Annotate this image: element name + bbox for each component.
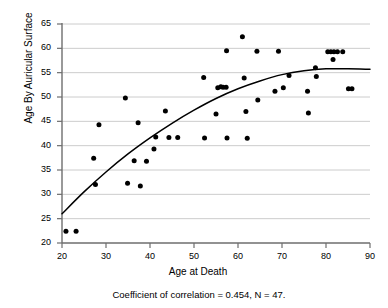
x-tick-label: 40 [138, 252, 162, 261]
data-point [96, 122, 101, 127]
data-point [287, 73, 292, 78]
data-point [123, 95, 128, 100]
data-point [144, 159, 149, 164]
data-point [132, 158, 137, 163]
chart-canvas [0, 0, 388, 308]
data-point [254, 49, 259, 54]
axis-ticks [57, 24, 370, 248]
data-point [91, 156, 96, 161]
y-tick-label: 65 [29, 19, 51, 28]
regression-curve [62, 69, 370, 214]
data-point [74, 229, 79, 234]
data-point [175, 135, 180, 140]
y-tick-label: 20 [29, 238, 51, 247]
gridlines [62, 24, 370, 219]
data-point [335, 49, 340, 54]
data-point [201, 75, 206, 80]
x-tick-label: 50 [182, 252, 206, 261]
y-tick-label: 55 [29, 68, 51, 77]
data-point [255, 97, 260, 102]
data-point [125, 181, 130, 186]
data-point [314, 74, 319, 79]
x-tick-label: 80 [314, 252, 338, 261]
data-point [240, 34, 245, 39]
data-point [136, 120, 141, 125]
scatter-plot-figure: Age By Auricular Surface Age at Death Co… [0, 0, 388, 308]
data-point [166, 135, 171, 140]
data-point [153, 134, 158, 139]
data-point [272, 89, 277, 94]
figure-caption: Coefficient of correlation = 0.454, N = … [44, 289, 354, 301]
x-tick-label: 30 [94, 252, 118, 261]
data-point [243, 109, 248, 114]
data-point [138, 184, 143, 189]
data-point [281, 85, 286, 90]
data-point [245, 136, 250, 141]
x-axis-label: Age at Death [128, 266, 268, 278]
data-point [224, 85, 229, 90]
data-point [305, 89, 310, 94]
data-point [225, 135, 230, 140]
data-point [151, 147, 156, 152]
data-point [276, 49, 281, 54]
axis-lines [62, 23, 370, 243]
y-tick-label: 30 [29, 189, 51, 198]
y-tick-label: 35 [29, 165, 51, 174]
data-point [242, 76, 247, 81]
x-tick-label: 60 [226, 252, 250, 261]
data-point [202, 135, 207, 140]
y-tick-label: 50 [29, 92, 51, 101]
data-point [340, 49, 345, 54]
y-tick-label: 25 [29, 214, 51, 223]
y-tick-label: 40 [29, 141, 51, 150]
x-tick-label: 90 [358, 252, 382, 261]
data-point [93, 182, 98, 187]
data-point [313, 65, 318, 70]
data-point [331, 57, 336, 62]
x-tick-label: 70 [270, 252, 294, 261]
y-tick-label: 60 [29, 43, 51, 52]
data-point [306, 111, 311, 116]
y-tick-label: 45 [29, 116, 51, 125]
data-point [63, 229, 68, 234]
data-points [63, 34, 354, 234]
data-point [224, 48, 229, 53]
data-point [349, 86, 354, 91]
data-point [163, 109, 168, 114]
fit-curve [62, 69, 370, 214]
data-point [214, 112, 219, 117]
x-tick-label: 20 [50, 252, 74, 261]
